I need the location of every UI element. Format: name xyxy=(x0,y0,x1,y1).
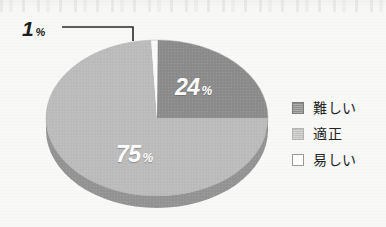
legend-item-difficult[interactable]: 難しい xyxy=(292,95,384,121)
legend-item-easy[interactable]: 易しい xyxy=(292,147,384,173)
legend-swatch-icon-easy xyxy=(292,154,304,166)
pie-top-texture xyxy=(46,40,268,196)
scanned-page: 24% 75% 1% 難しい 適正 易しい xyxy=(0,0,386,227)
legend-item-appropriate[interactable]: 適正 xyxy=(292,121,384,147)
chart-legend: 難しい 適正 易しい xyxy=(292,95,384,173)
legend-label-appropriate: 適正 xyxy=(313,127,342,141)
callout-value-1: 1 xyxy=(22,17,33,40)
slice-value-label-appropriate: 75% xyxy=(116,141,153,168)
callout-leader-line xyxy=(62,27,133,41)
slice-value-24: 24 xyxy=(175,74,200,100)
slice-value-label-difficult: 24% xyxy=(175,74,212,101)
callout-unit-1: % xyxy=(35,26,44,38)
slice-unit-24: % xyxy=(202,84,212,98)
legend-label-difficult: 難しい xyxy=(313,101,357,115)
legend-swatch-icon-appropriate xyxy=(292,128,304,140)
slice-value-75: 75 xyxy=(116,141,141,167)
legend-swatch-icon-difficult xyxy=(292,102,304,114)
slice-callout-label-easy: 1% xyxy=(22,17,45,41)
slice-unit-75: % xyxy=(143,151,153,165)
legend-label-easy: 易しい xyxy=(313,153,357,167)
pie-chart: 24% 75% 1% 難しい 適正 易しい xyxy=(0,0,386,227)
